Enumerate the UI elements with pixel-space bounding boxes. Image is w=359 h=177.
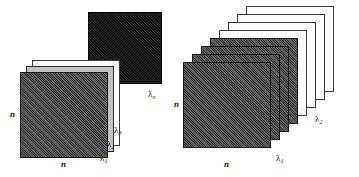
band-label-lambda-1-left: λ1	[100, 154, 107, 164]
band-label-lambda-n: λn	[148, 90, 155, 100]
band-label-lambda-2-right-subscript: 2	[319, 119, 322, 125]
band-label-lambda-3: λ3	[114, 126, 121, 136]
band-label-lambda-2-subscript: 2	[111, 144, 114, 150]
axis-label-n-vertical-left: n	[10, 110, 15, 119]
band-label-lambda-1-left-subscript: 1	[104, 158, 107, 164]
band-label-lambda-n-subscript: n	[152, 94, 155, 100]
plate-lambda-1	[20, 72, 108, 158]
axis-label-n-vertical-right: n	[174, 100, 179, 109]
band-label-lambda-1-right-subscript: 1	[280, 158, 283, 164]
axis-label-n-horizontal-left: n	[61, 160, 66, 169]
plate-band-1	[183, 62, 271, 148]
band-label-lambda-2-right: λ2	[315, 115, 322, 125]
band-label-lambda-2: λ2	[107, 140, 114, 150]
panel-sparse-band-stack: n n λn λ3 λ2 λ1	[0, 0, 180, 177]
panel-dense-band-stack: n n λ2 λ1	[180, 0, 359, 177]
band-label-lambda-3-subscript: 3	[118, 130, 121, 136]
band-label-lambda-1-right: λ1	[276, 154, 283, 164]
hyperspectral-cube-figure: n n λn λ3 λ2 λ1 n n λ2 λ1	[0, 0, 359, 177]
axis-label-n-horizontal-right: n	[224, 160, 229, 169]
